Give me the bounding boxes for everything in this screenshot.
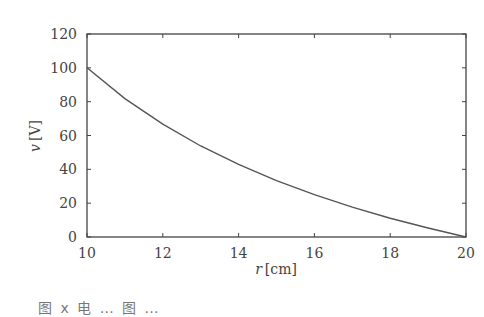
y-tick-label: 60 [59, 128, 77, 144]
x-axis-label: r[cm] [255, 261, 297, 277]
x-tick-label: 20 [457, 245, 475, 261]
plot-frame [87, 34, 466, 237]
x-tick-label: 18 [381, 245, 399, 261]
y-tick-label: 100 [50, 60, 77, 76]
y-tick-label: 120 [50, 26, 77, 42]
y-axis-label: v[V] [27, 120, 43, 152]
x-tick-label: 14 [230, 245, 248, 261]
x-tick-label: 16 [305, 245, 323, 261]
y-tick-label: 20 [59, 195, 77, 211]
x-tick-label: 12 [154, 245, 172, 261]
y-tick-label: 80 [59, 94, 77, 110]
y-tick-label: 40 [59, 161, 77, 177]
y-axis-ticks: 020406080100120 [50, 26, 466, 245]
x-axis-ticks: 101214161820 [78, 34, 475, 261]
data-line [87, 68, 466, 237]
y-tick-label: 0 [68, 229, 77, 245]
x-tick-label: 10 [78, 245, 96, 261]
figure-caption: 图 x 电 … 图 … [38, 297, 161, 317]
